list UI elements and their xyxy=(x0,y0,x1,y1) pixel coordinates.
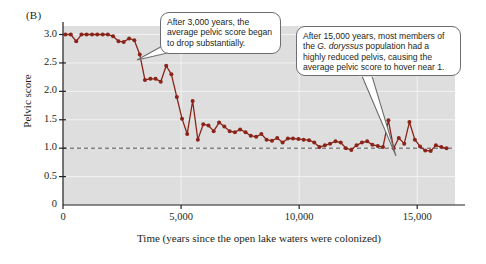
callout-line: to drop substantially. xyxy=(167,38,274,48)
callout-15000-years: After 15,000 years, most members ofthe G… xyxy=(296,26,461,76)
y-tick-label: 1.5 xyxy=(17,113,57,124)
callout-3000-years: After 3,000 years, theaverage pelvic sco… xyxy=(160,12,281,54)
callout-line: the G. doryssus population had a xyxy=(303,41,454,51)
x-tick-label: 5,000 xyxy=(151,211,211,222)
y-tick-label: 0.5 xyxy=(17,170,57,181)
y-tick-label: 2.5 xyxy=(17,56,57,67)
y-tick-label: 0 xyxy=(17,198,57,209)
callout-line: After 15,000 years, most members of xyxy=(303,31,454,41)
x-tick-label: 10,000 xyxy=(269,211,329,222)
x-tick-label: 0 xyxy=(33,211,93,222)
x-tick-label: 15,000 xyxy=(387,211,447,222)
callout-line: After 3,000 years, the xyxy=(167,17,274,27)
callout-line: average pelvic score to hover near 1. xyxy=(303,62,454,72)
x-axis-label: Time (years since the open lake waters w… xyxy=(63,232,455,244)
y-tick-label: 1.0 xyxy=(17,141,57,152)
y-tick-label: 3.0 xyxy=(17,28,57,39)
callout-line: average pelvic score began xyxy=(167,27,274,37)
callout-line: highly reduced pelvis, causing the xyxy=(303,52,454,62)
figure-panel-b: (B) Pelvic score Time (years since the o… xyxy=(0,0,486,264)
y-tick-label: 2.0 xyxy=(17,84,57,95)
